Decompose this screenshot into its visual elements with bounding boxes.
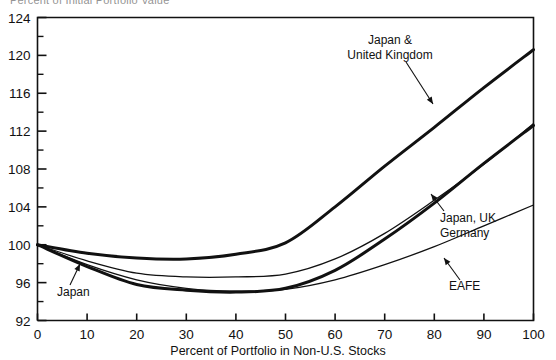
y-tick-label: 112 xyxy=(9,124,31,139)
x-tick-label: 30 xyxy=(179,327,194,342)
y-tick-label: 108 xyxy=(8,162,31,177)
y-tick-label: 100 xyxy=(8,238,31,253)
x-tick-label: 20 xyxy=(129,327,144,342)
y-tick-label: 92 xyxy=(15,314,30,329)
annotation-leader-lines xyxy=(70,62,460,285)
y-tick-label: 124 xyxy=(8,11,31,26)
annotation-labels: Japan &United KingdomJapan, UKGermanyEAF… xyxy=(57,33,496,299)
annotation-label-japan-uk: Japan &United Kingdom xyxy=(347,33,432,62)
x-tick-label: 100 xyxy=(522,327,545,342)
leader-line-japan xyxy=(70,264,80,285)
annotation-label-japan-uk-germany: Japan, UKGermany xyxy=(440,211,496,240)
x-axis-title: Percent of Portfolio in Non-U.S. Stocks xyxy=(170,344,385,358)
data-curves xyxy=(38,50,534,292)
chart-container: Percent of Initial Portfolio Value 01020… xyxy=(0,0,556,360)
leader-line-eafe xyxy=(444,258,460,280)
y-tick-label: 96 xyxy=(15,276,30,291)
x-tick-label: 60 xyxy=(328,327,343,342)
y-tick-label: 104 xyxy=(8,200,31,215)
y-tick-label: 116 xyxy=(9,86,31,101)
x-tick-label: 90 xyxy=(476,327,491,342)
x-axis-ticks xyxy=(38,314,534,321)
y-axis-tick-labels: 9296100104108112116120124 xyxy=(8,11,31,329)
x-tick-label: 80 xyxy=(427,327,442,342)
x-tick-label: 50 xyxy=(278,327,293,342)
annotation-label-eafe: EAFE xyxy=(449,279,480,293)
x-tick-label: 70 xyxy=(377,327,392,342)
chart-svg: 0102030405060708090100 92961001041081121… xyxy=(0,0,556,360)
y-axis-ticks xyxy=(38,18,47,321)
annotation-label-japan: Japan xyxy=(57,285,90,299)
x-tick-label: 10 xyxy=(80,327,95,342)
y-tick-label: 120 xyxy=(8,48,31,63)
x-tick-label: 40 xyxy=(228,327,243,342)
curve-japan xyxy=(38,124,534,278)
x-axis-tick-labels: 0102030405060708090100 xyxy=(34,327,545,342)
x-tick-label: 0 xyxy=(34,327,42,342)
leader-line-japan-uk xyxy=(406,62,433,104)
